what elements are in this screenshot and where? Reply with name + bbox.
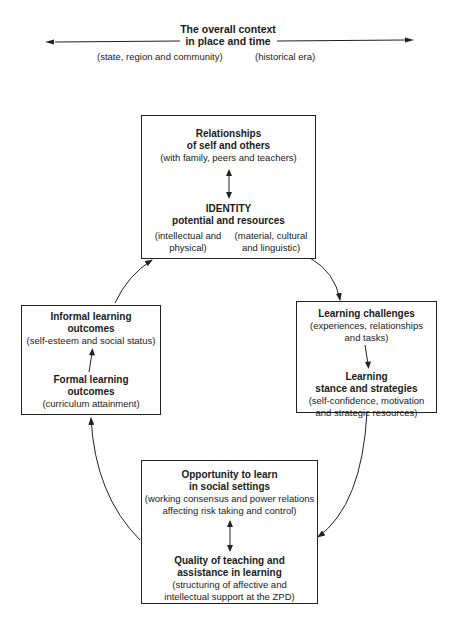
identity-heading-self-others: of self and others (142, 140, 315, 152)
identity-detail-intellectual: (intellectual and physical) (148, 230, 228, 253)
outcomes-box: Informal learning outcomes (self-esteem … (21, 305, 161, 415)
identity-detail-material: (material, cultural and linguistic) (230, 230, 312, 253)
arc-outcomes-to-identity (115, 260, 152, 303)
opportunity-heading-social: in social settings (142, 481, 317, 493)
opportunity-detail-risk: affecting risk taking and control) (142, 505, 317, 517)
identity-detail-material-line2: and linguistic) (230, 242, 312, 254)
opportunity-heading-assistance: assistance in learning (142, 567, 317, 579)
context-place-label: (state, region and community) (97, 51, 223, 62)
arrow-right-icon (405, 38, 414, 43)
identity-box: Relationships of self and others (with f… (141, 115, 316, 259)
context-title-line1: The overall context (160, 23, 296, 35)
context-title: The overall context in place and time (160, 23, 296, 47)
arc-challenges-to-opportunity (318, 412, 367, 537)
identity-heading-relationships: Relationships (142, 128, 315, 140)
opportunity-box: Opportunity to learn in social settings … (141, 460, 318, 604)
opportunity-detail-structuring: (structuring of affective and (142, 579, 317, 591)
outcomes-heading-informal-outcomes: outcomes (22, 323, 160, 335)
context-title-line2: in place and time (160, 35, 296, 47)
arrow-left-icon (45, 40, 54, 45)
identity-detail-material-line1: (material, cultural (230, 230, 312, 242)
challenges-heading-stance: stance and strategies (297, 383, 436, 395)
context-time-label: (historical era) (255, 51, 315, 62)
challenges-detail-experiences: (experiences, relationships (297, 320, 436, 332)
challenges-detail-self-confidence: (self-confidence, motivation (297, 395, 436, 407)
identity-heading-potential: potential and resources (142, 215, 315, 227)
identity-heading-identity: IDENTITY (142, 203, 315, 215)
down-arrow-icon (361, 344, 373, 370)
outcomes-heading-formal-outcomes: outcomes (22, 386, 160, 398)
challenges-detail-tasks: and tasks) (297, 332, 436, 344)
identity-detail-intellectual-line1: (intellectual and (148, 230, 228, 242)
challenges-detail-strategic: and strategic resources) (297, 407, 436, 419)
identity-detail-family: (with family, peers and teachers) (142, 152, 315, 164)
up-arrow-icon (85, 347, 97, 373)
challenges-heading-learning-challenges: Learning challenges (297, 308, 436, 320)
arc-identity-to-challenges (310, 258, 340, 300)
outcomes-heading-informal: Informal learning (22, 311, 160, 323)
challenges-box: Learning challenges (experiences, relati… (296, 301, 437, 413)
arc-opportunity-to-outcomes (91, 418, 140, 540)
opportunity-detail-zpd: intellectual support at the ZPD) (142, 591, 317, 603)
double-arrow-icon (224, 168, 234, 200)
challenges-heading-learning: Learning (297, 371, 436, 383)
opportunity-detail-working: (working consensus and power relations (142, 493, 317, 505)
double-arrow-icon (225, 519, 235, 553)
opportunity-heading-quality: Quality of teaching and (142, 555, 317, 567)
identity-detail-intellectual-line2: physical) (148, 242, 228, 254)
outcomes-detail-curriculum: (curriculum attainment) (22, 398, 160, 410)
outcomes-heading-formal: Formal learning (22, 374, 160, 386)
outcomes-detail-self-esteem: (self-esteem and social status) (22, 335, 160, 347)
opportunity-heading-opportunity: Opportunity to learn (142, 469, 317, 481)
